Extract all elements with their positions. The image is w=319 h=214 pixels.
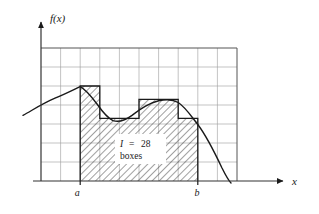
annotation-value: 28 [141, 139, 151, 149]
annotation-equals: = [129, 139, 134, 149]
integral-box-counting-figure: f(x) x a b I = 28 boxes [0, 0, 319, 214]
lower-limit-label: a [75, 187, 80, 198]
box-count-annotation: I = 28 boxes [115, 134, 166, 164]
annotation-units: boxes [120, 151, 142, 161]
upper-limit-label: b [195, 187, 200, 198]
x-axis-label: x [291, 175, 297, 187]
y-axis-label: f(x) [50, 12, 66, 25]
